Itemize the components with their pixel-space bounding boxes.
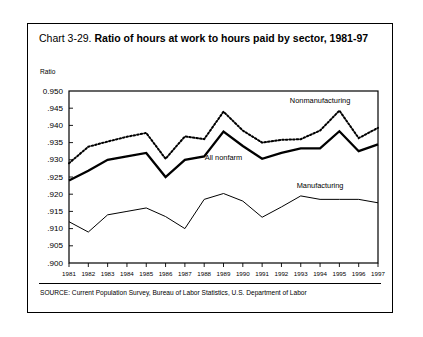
y-tick-label: 0.950	[43, 87, 64, 96]
y-tick-label: .915	[47, 207, 63, 216]
plot-area: 0.950.945.940.935.930.925.920.915.910.90…	[28, 24, 394, 314]
y-tick-label: .900	[47, 259, 63, 268]
x-tick-label: 1992	[275, 270, 289, 277]
series-line-manufacturing	[69, 194, 378, 233]
y-tick-label: .945	[47, 104, 63, 113]
y-tick-label: .940	[47, 121, 63, 130]
x-tick-label: 1985	[139, 270, 153, 277]
y-tick-label: .920	[47, 190, 63, 199]
x-tick-label: 1987	[178, 270, 192, 277]
x-tick-label: 1984	[120, 270, 134, 277]
series-annotations: NonmanufacturingAll nonfarmManufacturing	[205, 96, 350, 190]
x-tick-label: 1996	[352, 270, 366, 277]
annotation-all-nonfarm: All nonfarm	[205, 153, 242, 162]
x-axis-tick-labels: 1981198219831984198519861987198819891990…	[62, 270, 385, 277]
x-tick-label: 1994	[313, 270, 327, 277]
x-tick-label: 1983	[101, 270, 115, 277]
y-tick-label: .935	[47, 138, 63, 147]
x-tick-label: 1995	[332, 270, 346, 277]
chart-figure-frame: Chart 3-29. Ratio of hours at work to ho…	[27, 23, 393, 313]
y-tick-label: .910	[47, 224, 63, 233]
y-axis-tick-labels: 0.950.945.940.935.930.925.920.915.910.90…	[43, 87, 64, 268]
data-series-group	[69, 111, 378, 232]
x-axis-tick-marks	[69, 263, 378, 267]
y-tick-label: .925	[47, 173, 63, 182]
y-tick-label: .905	[47, 241, 63, 250]
x-tick-label: 1982	[81, 270, 95, 277]
x-tick-label: 1997	[371, 270, 385, 277]
x-tick-label: 1990	[236, 270, 250, 277]
plot-border	[69, 91, 378, 263]
x-tick-label: 1993	[294, 270, 308, 277]
x-tick-label: 1986	[159, 270, 173, 277]
annotation-nonmanufacturing: Nonmanufacturing	[290, 96, 350, 105]
line-chart-svg: 0.950.945.940.935.930.925.920.915.910.90…	[28, 24, 394, 314]
y-tick-label: .930	[47, 155, 63, 164]
x-tick-label: 1988	[197, 270, 211, 277]
x-tick-label: 1981	[62, 270, 76, 277]
x-tick-label: 1989	[217, 270, 231, 277]
source-note: SOURCE: Current Population Survey, Burea…	[40, 288, 385, 297]
x-tick-label: 1991	[255, 270, 269, 277]
annotation-manufacturing: Manufacturing	[297, 181, 344, 190]
source-divider	[39, 283, 381, 284]
